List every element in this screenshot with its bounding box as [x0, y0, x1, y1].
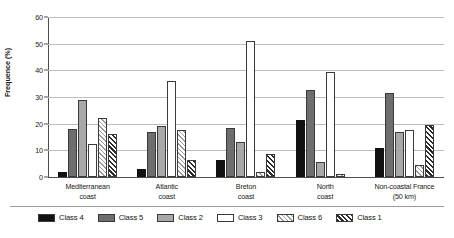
x-axis-labels: MediterraneancoastAtlanticcoastBretoncoa…: [48, 182, 444, 206]
legend-item[interactable]: Class 1: [336, 213, 382, 222]
bar: [296, 120, 305, 177]
bar: [78, 100, 87, 177]
x-label-line: Non-coastal France: [355, 182, 454, 192]
chart-legend: Class 4Class 5Class 2Class 3Class 6Class…: [38, 213, 396, 222]
legend-label: Class 3: [238, 213, 263, 222]
legend-item[interactable]: Class 3: [217, 213, 263, 222]
bar-group: [286, 17, 365, 177]
bar: [167, 81, 176, 177]
bar: [226, 128, 235, 177]
legend-swatch-class1: [336, 214, 353, 222]
bar-group: [206, 17, 285, 177]
legend-label: Class 5: [119, 213, 144, 222]
x-label-line: (50 km): [355, 192, 454, 202]
legend-swatch-class5: [98, 214, 115, 222]
bar: [98, 118, 107, 177]
bar: [306, 90, 315, 177]
y-tick-label: 50: [35, 39, 48, 48]
x-axis-baseline: [48, 177, 444, 178]
bar: [395, 132, 404, 177]
bar: [385, 93, 394, 177]
bar: [137, 169, 146, 177]
bar-group: [48, 17, 127, 177]
bar: [216, 160, 225, 177]
bar: [405, 130, 414, 177]
bar: [326, 72, 335, 177]
bar: [415, 165, 424, 177]
legend-item[interactable]: Class 2: [157, 213, 203, 222]
bar: [187, 160, 196, 177]
bar: [157, 126, 166, 177]
bar: [236, 142, 245, 177]
legend-label: Class 1: [357, 213, 382, 222]
bar-chart: Frequence (%) MediterraneancoastAtlantic…: [0, 0, 454, 238]
y-tick-label: 20: [35, 119, 48, 128]
y-tick-label: 10: [35, 146, 48, 155]
bar-group: [127, 17, 206, 177]
bar: [266, 154, 275, 177]
plot-area: [48, 17, 444, 177]
bar: [256, 172, 265, 177]
bar: [88, 144, 97, 177]
bar: [58, 172, 67, 177]
legend-item[interactable]: Class 6: [277, 213, 323, 222]
x-axis-label: Non-coastal France(50 km): [355, 182, 454, 201]
legend-divider: [10, 206, 444, 207]
bar: [177, 130, 186, 177]
legend-swatch-class4: [38, 214, 55, 222]
bar: [147, 132, 156, 177]
bar: [68, 129, 77, 177]
y-tick-label: 60: [35, 13, 48, 22]
bar-group: [365, 17, 444, 177]
legend-swatch-class6: [277, 214, 294, 222]
bar: [316, 162, 325, 177]
y-tick-label: 40: [35, 66, 48, 75]
legend-swatch-class3: [217, 214, 234, 222]
legend-item[interactable]: Class 5: [98, 213, 144, 222]
bar: [375, 148, 384, 177]
legend-label: Class 2: [178, 213, 203, 222]
legend-swatch-class2: [157, 214, 174, 222]
legend-item[interactable]: Class 4: [38, 213, 84, 222]
legend-label: Class 6: [298, 213, 323, 222]
y-tick-label: 30: [35, 93, 48, 102]
y-axis-title: Frequence (%): [3, 48, 12, 97]
bar: [108, 134, 117, 177]
y-tick-label: 0: [39, 173, 48, 182]
bar: [246, 41, 255, 177]
legend-label: Class 4: [59, 213, 84, 222]
bar: [425, 125, 434, 177]
bar: [336, 174, 345, 177]
